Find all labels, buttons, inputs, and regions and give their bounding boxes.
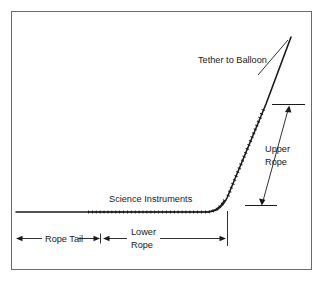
label-science-instruments: Science Instruments [109,194,193,204]
label-lower-rope-line2: Rope [131,240,153,250]
figure-root: Tether to Balloon Upper Rope Science Ins… [0,0,324,284]
rope-diagram-svg: Tether to Balloon Upper Rope Science Ins… [0,0,324,284]
label-tether-to-balloon: Tether to Balloon [198,55,267,65]
label-upper-rope-line1: Upper [265,144,290,154]
diagram-border [12,12,312,270]
label-rope-tail: Rope Tail [45,234,83,244]
label-upper-rope-line2: Rope [265,157,287,167]
label-lower-rope-line1: Lower [131,227,156,237]
